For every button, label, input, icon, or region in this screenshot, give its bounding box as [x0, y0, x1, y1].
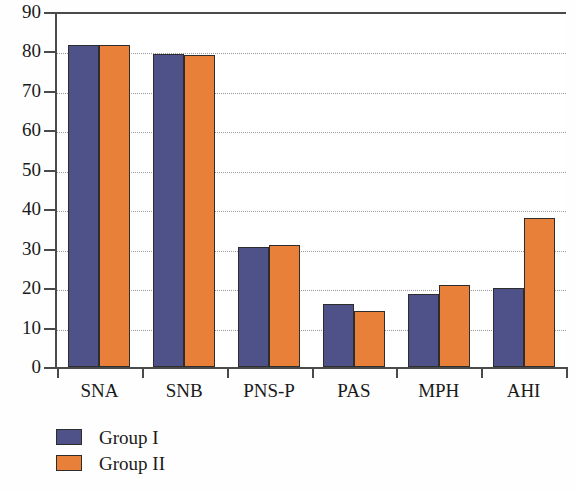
gridline: [57, 53, 566, 54]
y-axis-tick: [44, 367, 55, 369]
bar-sna-group-ii: [99, 45, 130, 367]
bar-chart-figure: 0102030405060708090 SNASNBPNS-PPASMPHAHI…: [0, 0, 575, 491]
y-axis-tick-label: 30: [1, 239, 41, 258]
legend-swatch-icon: [56, 429, 82, 445]
bar-ahi-group-ii: [524, 218, 555, 367]
legend-item: Group II: [56, 450, 296, 476]
y-axis-line: [55, 12, 57, 369]
x-axis-tick: [396, 367, 398, 378]
x-axis-tick: [481, 367, 483, 378]
y-axis-tick: [44, 12, 55, 14]
x-axis-line: [55, 367, 566, 369]
y-axis-tick-label: 80: [1, 41, 41, 60]
x-axis-tick-label: SNA: [57, 381, 142, 402]
bar-snb-group-ii: [184, 55, 215, 367]
gridline: [57, 211, 566, 212]
bar-snb-group-i: [153, 54, 184, 367]
y-axis-tick: [44, 288, 55, 290]
bar-sna-group-i: [68, 45, 99, 367]
x-axis-tick: [312, 367, 314, 378]
legend-swatch-icon: [56, 455, 82, 471]
plot-area: [57, 12, 566, 367]
legend-label: Group II: [99, 454, 165, 473]
x-axis-tick-label: PAS: [312, 381, 397, 402]
legend-label: Group I: [99, 428, 159, 447]
x-axis-tick-label: SNB: [142, 381, 227, 402]
y-axis-tick: [44, 91, 55, 93]
gridline: [57, 251, 566, 252]
y-axis-tick-label: 10: [1, 318, 41, 337]
y-axis-tick: [44, 170, 55, 172]
y-axis-tick-label: 40: [1, 199, 41, 218]
y-axis-tick: [44, 130, 55, 132]
x-axis-tick-label: PNS-P: [227, 381, 312, 402]
bar-mph-group-ii: [439, 285, 470, 367]
y-axis-tick: [44, 328, 55, 330]
chart-legend: Group IGroup II: [56, 424, 296, 476]
y-axis-tick: [44, 249, 55, 251]
y-axis-tick-label: 20: [1, 278, 41, 297]
x-axis-tick-label: MPH: [396, 381, 481, 402]
y-axis-tick: [44, 51, 55, 53]
y-axis-tick-label: 50: [1, 160, 41, 179]
x-axis-tick: [57, 367, 59, 378]
gridline: [57, 330, 566, 331]
gridline: [57, 93, 566, 94]
x-axis-tick-label: AHI: [481, 381, 566, 402]
y-axis-tick-label: 70: [1, 81, 41, 100]
gridline: [57, 290, 566, 291]
x-axis-tick: [142, 367, 144, 378]
x-axis-tick: [566, 367, 568, 378]
bar-pns-p-group-i: [238, 247, 269, 367]
y-axis-tick-label: 0: [1, 357, 41, 376]
y-axis-tick: [44, 209, 55, 211]
gridline: [57, 172, 566, 173]
bar-pas-group-ii: [354, 311, 385, 367]
y-axis-tick-label: 60: [1, 120, 41, 139]
bar-ahi-group-i: [493, 288, 524, 367]
bar-pas-group-i: [323, 304, 354, 367]
bar-mph-group-i: [408, 294, 439, 367]
y-axis-tick-label: 90: [1, 2, 41, 21]
bar-pns-p-group-ii: [269, 245, 300, 367]
x-axis-tick: [227, 367, 229, 378]
gridline: [57, 132, 566, 133]
legend-item: Group I: [56, 424, 296, 450]
